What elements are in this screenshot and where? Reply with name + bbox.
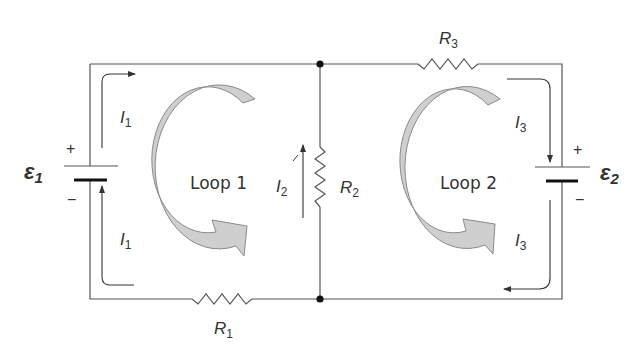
loop-arrow-1 [152, 85, 255, 256]
current-arrow-i1-top [102, 74, 135, 148]
loop-arrow-2 [400, 87, 500, 254]
emf2-minus: − [575, 191, 584, 208]
resistor-r1 [192, 294, 252, 304]
emf1-plus: + [66, 140, 75, 157]
current-arrow-i3-top [507, 79, 550, 162]
loop2-label: Loop 2 [440, 173, 497, 193]
emf1-minus: − [67, 191, 76, 208]
current-arrow-i2 [293, 145, 303, 218]
resistor-r3 [418, 59, 478, 69]
r1-label: R1 [214, 319, 233, 341]
current-arrow-i1-bottom [102, 186, 134, 285]
i3-top-label: I3 [515, 113, 527, 135]
loop1-label: Loop 1 [190, 173, 247, 193]
r2-label: R2 [340, 178, 359, 200]
i2-label: I2 [276, 177, 288, 199]
current-arrow-i3-bottom [504, 200, 550, 289]
r3-label: R3 [439, 29, 458, 51]
battery-emf1 [64, 166, 118, 180]
i1-bottom-label: I1 [120, 230, 132, 252]
junction-top [316, 60, 323, 67]
emf2-label: ε2 [600, 160, 620, 187]
emf2-plus: + [573, 141, 582, 158]
junction-bottom [316, 295, 323, 302]
circuit-diagram: ε1 + − ε2 + − R3 R1 R2 I1 I1 I2 I3 I3 Lo… [0, 0, 639, 354]
emf1-label: ε1 [24, 159, 43, 186]
i3-bottom-label: I3 [515, 231, 527, 253]
i1-top-label: I1 [120, 108, 132, 130]
battery-emf2 [535, 167, 590, 181]
resistor-r2 [315, 147, 325, 207]
